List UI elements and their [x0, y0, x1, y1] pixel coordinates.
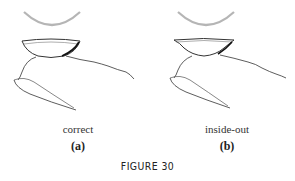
eye-arc-icon	[24, 12, 80, 25]
lens-on-finger-inside-out-illustration	[148, 0, 295, 120]
caption-inside-out: inside-out	[177, 123, 277, 135]
label-a: (a)	[58, 139, 98, 154]
panel-inside-out: inside-out (b)	[148, 0, 295, 120]
panel-correct: correct (a)	[0, 0, 147, 120]
figure-title: FIGURE 30	[22, 160, 273, 173]
lens-on-finger-correct-illustration	[0, 0, 147, 120]
label-b: (b)	[207, 139, 247, 154]
caption-correct: correct	[28, 123, 128, 135]
eye-arc-icon	[178, 12, 234, 25]
